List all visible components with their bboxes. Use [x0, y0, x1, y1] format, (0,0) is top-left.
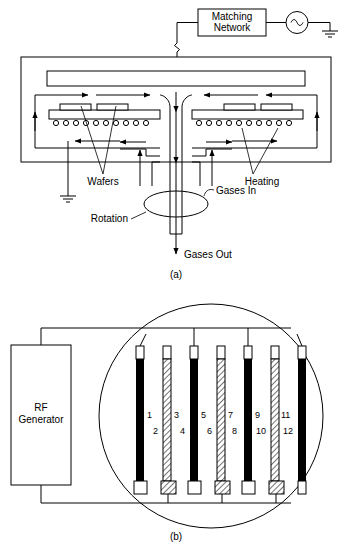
figure-container: Matching Network: [0, 0, 351, 552]
gap-number-9: 9: [255, 410, 260, 420]
gap-number-6: 6: [207, 426, 212, 436]
wafer-left-1: [60, 104, 91, 110]
matching-network-box: Matching Network: [198, 9, 266, 36]
left-susceptor-plate: [49, 110, 160, 119]
gap-number-10: 10: [256, 426, 266, 436]
gap-number-3: 3: [174, 410, 179, 420]
gap-number-5: 5: [201, 410, 206, 420]
right-susceptor-plate: [192, 110, 303, 119]
rf-generator-label-line1: RF: [34, 402, 47, 413]
panel-b-caption: (b): [170, 531, 182, 542]
gap-number-11: 11: [281, 410, 290, 420]
gap-number-8: 8: [232, 426, 237, 436]
gases-out-label: Gases Out: [184, 249, 232, 260]
reactor-diagram: Matching Network: [0, 0, 351, 552]
gap-number-4: 4: [180, 426, 185, 436]
top-electrode: [47, 71, 305, 86]
gap-number-1: 1: [147, 410, 152, 420]
gap-number-7: 7: [228, 410, 233, 420]
wafer-left-2: [97, 104, 128, 110]
panel-a-caption: (a): [170, 269, 182, 280]
gap-number-2: 2: [153, 426, 158, 436]
matching-network-label-line2: Network: [214, 22, 252, 33]
rf-generator-box: RF Generator: [11, 345, 71, 485]
ac-source-icon: [286, 12, 308, 34]
rotation-label: Rotation: [91, 213, 128, 224]
gap-number-12: 12: [283, 426, 293, 436]
wafer-right-1: [224, 104, 255, 110]
gases-in-label: Gases In: [216, 185, 256, 196]
wafers-label: Wafers: [87, 176, 118, 187]
wafer-right-2: [261, 104, 292, 110]
rf-generator-label-line2: Generator: [18, 414, 64, 425]
matching-network-label-line1: Matching: [212, 11, 253, 22]
electrode-plate-7: [297, 334, 306, 494]
